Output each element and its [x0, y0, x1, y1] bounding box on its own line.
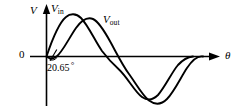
- vertical-axis-arrowhead: [43, 4, 50, 14]
- vout-label-main: V: [103, 13, 110, 25]
- vin-curve-label: Vin: [51, 3, 64, 15]
- phase-shift-annotation: 20.65°: [47, 61, 74, 73]
- vin-label-main: V: [51, 2, 58, 14]
- horizontal-axis-label: θ: [225, 50, 230, 61]
- vout-curve-label: Vout: [103, 14, 120, 26]
- vin-label-subscript: in: [58, 7, 64, 16]
- horizontal-axis-arrowhead: [209, 53, 220, 61]
- vertical-axis-label: V: [30, 5, 37, 16]
- phase-shift-waveform-figure: V Vin Vout 0 θ 20.65°: [0, 0, 237, 109]
- origin-label: 0: [19, 49, 25, 60]
- vout-label-subscript: out: [110, 18, 120, 27]
- degree-symbol: °: [71, 60, 75, 70]
- phase-shift-value: 20.65: [47, 62, 70, 73]
